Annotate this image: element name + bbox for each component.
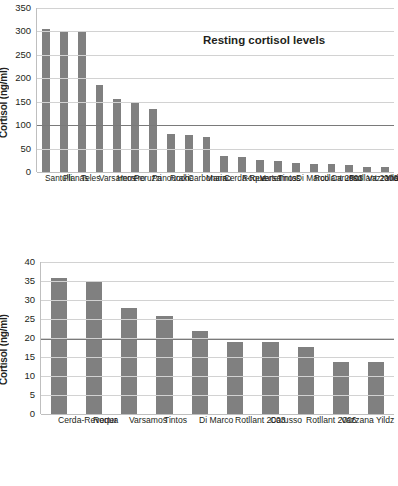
x-label-slot: Rotllant 2003 xyxy=(217,418,252,486)
y-axis-ticks-bottom: 0510152025303540 xyxy=(6,262,40,414)
x-label-slot: Cerda-Reverter xyxy=(40,418,75,486)
bar-varsamos xyxy=(96,85,104,172)
bar-slot xyxy=(233,8,251,172)
reference-line xyxy=(37,125,394,126)
x-label-slot: Yildz xyxy=(376,176,394,248)
x-label-slot: Santulli xyxy=(36,176,54,248)
x-label-slot: Rotllant 2003 xyxy=(305,176,323,248)
bar-slot xyxy=(162,8,180,172)
bar-varsamos xyxy=(256,160,264,172)
bar-slot xyxy=(126,8,144,172)
y-tick-label: 0 xyxy=(26,167,31,177)
gridline xyxy=(37,78,394,79)
bar-slot xyxy=(180,8,198,172)
bar-slot xyxy=(269,8,287,172)
bar-slot xyxy=(251,8,269,172)
x-label-slot: Teles xyxy=(72,176,90,248)
y-tick-label: 200 xyxy=(15,74,31,84)
y-tick-label: 100 xyxy=(15,120,31,130)
bar-cerda-reverter xyxy=(220,156,228,172)
y-tick-label: 25 xyxy=(24,314,35,324)
x-label-slot: Varsamos xyxy=(111,418,146,486)
y-tick-label: 50 xyxy=(20,144,31,154)
bar-slot xyxy=(287,8,305,172)
y-tick-label: 0 xyxy=(30,409,35,419)
x-label-slot: Herrero xyxy=(108,176,126,248)
x-axis-labels-top: SantulliPlanasTelesVarsamosHerreroPeruzz… xyxy=(36,176,394,248)
x-label-slot: Vazzana xyxy=(323,418,358,486)
y-tick-label: 35 xyxy=(24,276,35,286)
reference-line xyxy=(41,339,394,340)
x-label-slot: Varsamos xyxy=(90,176,108,248)
x-label-slot: Yildz xyxy=(359,418,394,486)
bar-slot xyxy=(340,8,358,172)
x-axis-labels-bottom: Cerda-ReverterRoquaVarsamosTintosDi Marc… xyxy=(40,418,394,486)
chart-bottom: Cortisol (ng/ml) 0510152025303540 Cerda-… xyxy=(0,250,398,486)
gridline xyxy=(41,319,394,320)
bar-cerda-reverter xyxy=(51,278,67,414)
bar-tintos xyxy=(156,316,172,414)
x-label-slot: Carusso xyxy=(323,176,341,248)
y-tick-label: 5 xyxy=(30,390,35,400)
bar-roque xyxy=(238,157,246,172)
gridline xyxy=(37,8,394,9)
plot-area-top: 050100150200250300350 xyxy=(36,8,394,172)
bar-slot xyxy=(358,8,376,172)
x-label-slot: Tintos xyxy=(146,418,181,486)
plot-canvas-bottom xyxy=(40,262,394,414)
bar-panouraki xyxy=(149,109,157,172)
x-label-slot: Di Marco xyxy=(182,418,217,486)
bar-slot xyxy=(55,8,73,172)
bar-slot xyxy=(376,8,394,172)
gridline xyxy=(37,102,394,103)
gridline xyxy=(41,395,394,396)
bar-rotllant-2003 xyxy=(227,342,243,414)
bar-peruzzi xyxy=(131,102,139,172)
bar-slot xyxy=(108,8,126,172)
gridline xyxy=(37,31,394,32)
bar-di-marco xyxy=(192,331,208,414)
y-axis-ticks-top: 050100150200250300350 xyxy=(2,8,36,172)
bar-santulli xyxy=(42,29,50,172)
gridline xyxy=(37,149,394,150)
gridline xyxy=(41,262,394,263)
gridline xyxy=(41,281,394,282)
figure-two-bar-charts: Cortisol (ng/ml) 050100150200250300350 S… xyxy=(0,0,398,486)
x-label-slot: Roque xyxy=(233,176,251,248)
x-label-slot: Carbonara xyxy=(179,176,197,248)
x-label-slot: Roche xyxy=(161,176,179,248)
bar-slot xyxy=(37,8,55,172)
bar-slot xyxy=(198,8,216,172)
bar-slot xyxy=(215,8,233,172)
bar-slot xyxy=(73,8,91,172)
x-label-slot: Cerda-Reverter xyxy=(215,176,233,248)
x-label-slot: Panouraki xyxy=(143,176,161,248)
bar-herrero xyxy=(113,99,121,172)
bar-slot xyxy=(305,8,323,172)
bar-slot xyxy=(323,8,341,172)
bar-carbonara xyxy=(185,135,193,172)
bar-carusso xyxy=(328,164,336,172)
bar-marino xyxy=(203,137,211,172)
bar-rotllant-2006 xyxy=(345,165,353,172)
y-tick-label: 300 xyxy=(15,27,31,37)
y-tick-label: 10 xyxy=(24,371,35,381)
x-label-slot: Vazzana xyxy=(358,176,376,248)
x-label-slot: Di Marco xyxy=(287,176,305,248)
x-label-slot: Peruzzi xyxy=(126,176,144,248)
y-tick-label: 15 xyxy=(24,352,35,362)
gridline xyxy=(41,357,394,358)
plot-canvas-top xyxy=(36,8,394,172)
bar-yildz xyxy=(368,362,384,414)
bar-tintos xyxy=(274,161,282,172)
y-tick-label: 30 xyxy=(24,295,35,305)
x-label-slot: Varsamos xyxy=(251,176,269,248)
x-label-slot: Rotllant 2006 xyxy=(340,176,358,248)
bar-carusso xyxy=(262,342,278,414)
bar-vazzana xyxy=(333,362,349,414)
gridline xyxy=(41,376,394,377)
y-tick-label: 250 xyxy=(15,50,31,60)
bar-rotllant-2003 xyxy=(310,164,318,172)
bar-di-marco xyxy=(292,163,300,172)
x-label-slot: Roqua xyxy=(75,418,110,486)
